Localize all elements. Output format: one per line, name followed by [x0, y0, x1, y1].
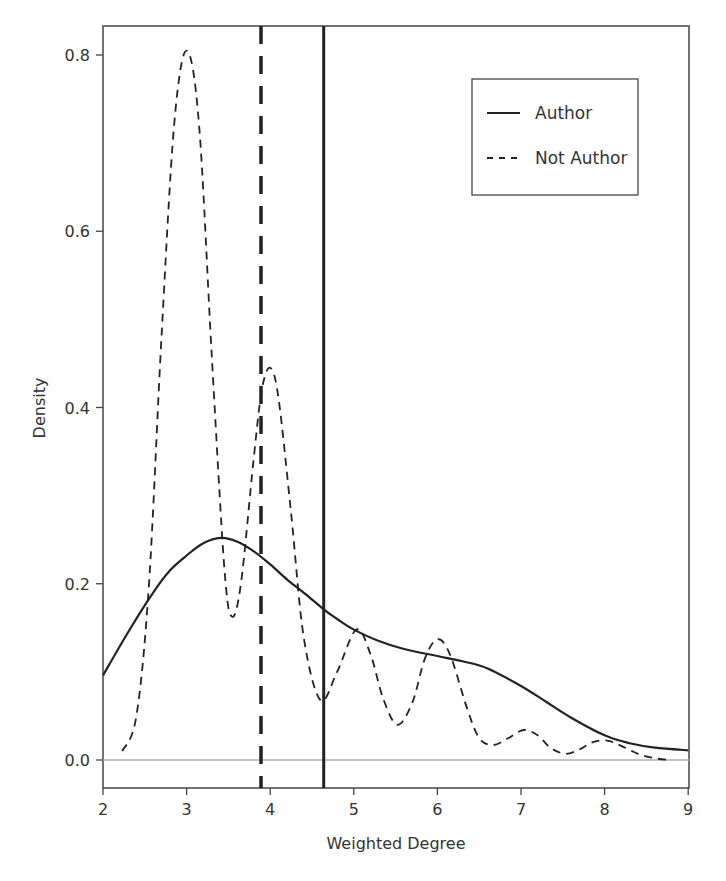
x-tick-label: 7	[516, 800, 526, 819]
y-axis: 0.00.20.40.60.8	[65, 46, 103, 770]
legend-box	[472, 79, 638, 195]
legend-author-label: Author	[535, 103, 592, 123]
y-tick-label: 0.4	[65, 399, 90, 418]
legend: Author Not Author	[472, 79, 638, 195]
series-author-line	[103, 538, 688, 750]
y-tick-label: 0.6	[65, 222, 90, 241]
x-tick-label: 6	[432, 800, 442, 819]
x-tick-label: 3	[182, 800, 192, 819]
legend-not-author-label: Not Author	[535, 148, 627, 168]
x-axis: 23456789	[98, 788, 693, 819]
x-tick-label: 5	[349, 800, 359, 819]
y-tick-label: 0.8	[65, 46, 90, 65]
x-tick-label: 9	[683, 800, 693, 819]
x-tick-label: 4	[265, 800, 275, 819]
y-axis-title: Density	[30, 378, 49, 439]
x-tick-label: 8	[600, 800, 610, 819]
x-tick-label: 2	[98, 800, 108, 819]
y-tick-label: 0.2	[65, 575, 90, 594]
density-chart: 0.00.20.40.60.8 23456789 Author Not Auth…	[0, 0, 726, 881]
y-tick-label: 0.0	[65, 751, 90, 770]
x-axis-title: Weighted Degree	[326, 834, 465, 853]
